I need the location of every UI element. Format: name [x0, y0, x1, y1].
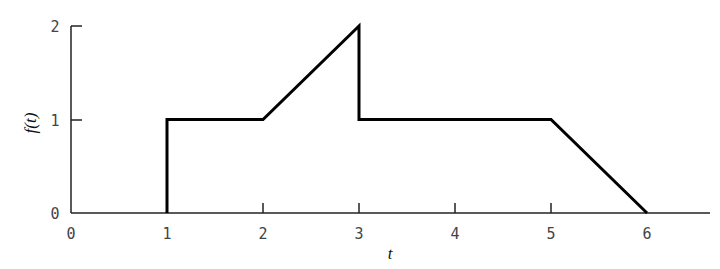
x-tick-label: 5: [546, 225, 555, 243]
y-tick-label: 1: [50, 112, 59, 130]
x-tick-label: 3: [354, 225, 363, 243]
function-plot: 2 1 0 0 1 2 3 4 5 6 t f(t): [0, 0, 720, 269]
x-tick-label: 0: [66, 225, 75, 243]
y-tick-label: 2: [50, 18, 59, 36]
x-tick-label: 2: [258, 225, 267, 243]
y-tick-label: 0: [50, 205, 59, 223]
x-tick-label: 4: [450, 225, 459, 243]
function-curve: [167, 26, 647, 213]
y-axis-title: f(t): [21, 112, 40, 133]
x-axis-title: t: [388, 244, 394, 263]
y-axis: [71, 26, 82, 213]
x-tick-label: 1: [162, 225, 171, 243]
x-tick-label: 6: [642, 225, 651, 243]
